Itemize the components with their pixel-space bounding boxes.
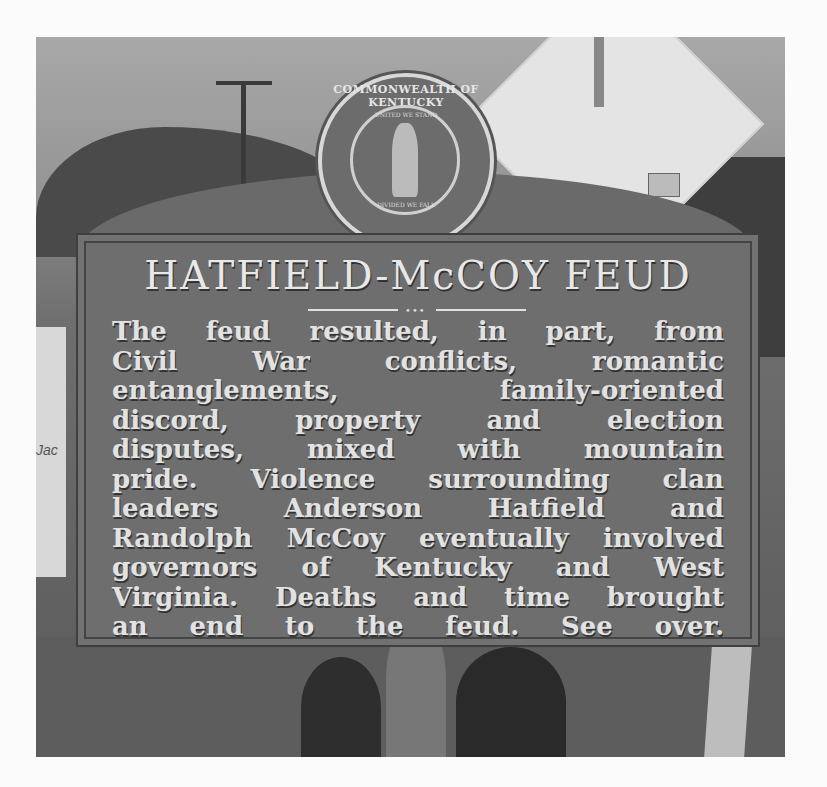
marker-line: Randolph McCoy eventually involved	[112, 524, 724, 554]
marker-line: an end to the feud. See over.	[112, 612, 724, 642]
truck-lettering: Jac	[36, 442, 58, 458]
shadow-right	[456, 647, 566, 757]
marker-title: HATFIELD-McCOY FEUD	[78, 253, 758, 298]
divider-line-left	[308, 309, 398, 311]
kentucky-state-seal: COMMONWEALTH OF KENTUCKY UNITED WE STAND…	[318, 73, 494, 249]
guard-post	[704, 647, 752, 757]
seal-motto-bottom: DIVIDED WE FALL	[322, 201, 490, 208]
marker-line: Virginia. Deaths and time brought	[112, 583, 724, 613]
marker-line: Civil War conflicts, romantic	[112, 347, 724, 377]
marker-photo: Jac COMMONWEALTH OF KENTUCKY UNITED WE S…	[36, 37, 785, 757]
seal-figures-icon	[392, 123, 418, 197]
marker-plaque: HATFIELD-McCOY FEUD ••• The feud resulte…	[76, 233, 760, 647]
marker-line: entanglements, family-oriented	[112, 376, 724, 406]
marker-line: pride. Violence surrounding clan	[112, 465, 724, 495]
seal-motto-top: UNITED WE STAND	[322, 111, 490, 118]
divider-dots: •••	[405, 305, 426, 316]
sign-sticker	[648, 173, 680, 197]
divider-line-right	[436, 309, 526, 311]
marker-line: The feud resulted, in part, from	[112, 317, 724, 347]
marker-text: The feud resulted, in part, from Civil W…	[112, 317, 724, 642]
marker-line: governors of Kentucky and West	[112, 553, 724, 583]
marker-line: discord, property and election	[112, 406, 724, 436]
marker-line: disputes, mixed with mountain	[112, 435, 724, 465]
title-divider: •••	[308, 305, 528, 315]
shadow-left	[301, 657, 381, 757]
marker-line: leaders Anderson Hatfield and	[112, 494, 724, 524]
sign-post	[594, 37, 604, 107]
